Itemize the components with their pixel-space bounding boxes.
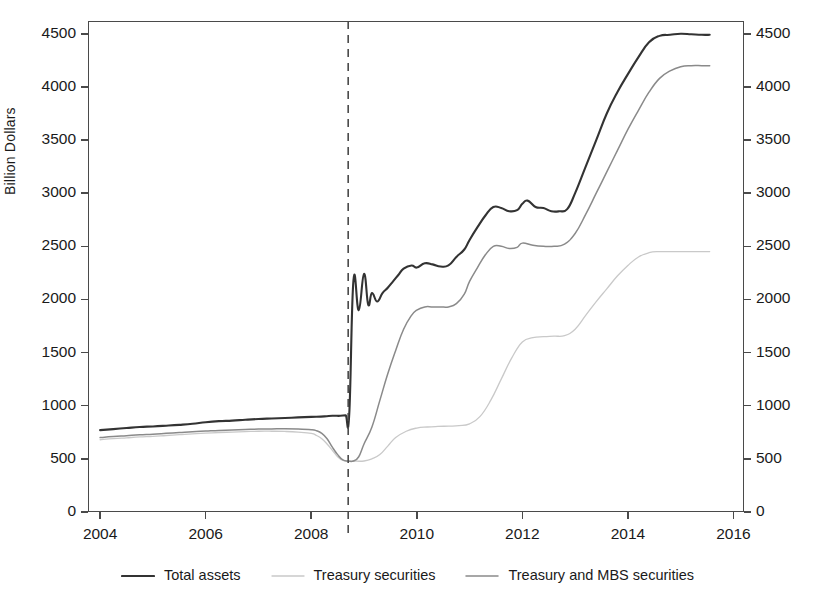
y-tick-label-right: 3500 [756, 130, 790, 148]
y-tick-mark-left [81, 246, 88, 248]
y-tick-label-left: 3500 [42, 130, 76, 148]
y-axis-label: Billion Dollars [2, 65, 18, 195]
x-tick-mark [310, 512, 312, 519]
y-tick-mark-right [744, 511, 751, 513]
y-tick-label-left: 3000 [42, 183, 76, 201]
y-tick-mark-right [744, 192, 751, 194]
y-tick-label-right: 3000 [756, 183, 790, 201]
y-tick-label-left: 2000 [42, 289, 76, 307]
y-tick-label-left: 2500 [42, 236, 76, 254]
y-tick-mark-right [744, 86, 751, 88]
y-tick-label-left: 4500 [42, 24, 76, 42]
y-tick-label-right: 4500 [756, 24, 790, 42]
y-tick-label-left: 500 [50, 449, 76, 467]
y-tick-mark-left [81, 405, 88, 407]
y-tick-label-right: 0 [756, 502, 765, 520]
y-tick-label-right: 2500 [756, 236, 790, 254]
y-tick-label-left: 1000 [42, 396, 76, 414]
y-tick-mark-right [744, 246, 751, 248]
legend-item-total-assets[interactable]: Total assets [121, 566, 241, 584]
y-tick-mark-left [81, 33, 88, 35]
legend-item-treasury-and-mbs-securities[interactable]: Treasury and MBS securities [465, 566, 694, 584]
x-tick-mark [733, 512, 735, 519]
legend-label: Treasury securities [314, 567, 436, 583]
legend-item-treasury-securities[interactable]: Treasury securities [271, 566, 436, 584]
x-tick-mark [627, 512, 629, 519]
x-tick-label: 2008 [294, 525, 328, 543]
x-tick-label: 2010 [400, 525, 434, 543]
y-tick-label-right: 4000 [756, 77, 790, 95]
x-tick-label: 2014 [611, 525, 645, 543]
x-tick-label: 2016 [716, 525, 750, 543]
y-tick-label-left: 1500 [42, 343, 76, 361]
x-tick-mark [416, 512, 418, 519]
legend-label: Total assets [164, 567, 241, 583]
x-tick-mark [522, 512, 524, 519]
y-tick-mark-left [81, 86, 88, 88]
legend-label: Treasury and MBS securities [508, 567, 694, 583]
y-tick-mark-right [744, 33, 751, 35]
y-tick-mark-left [81, 352, 88, 354]
y-tick-label-right: 1000 [756, 396, 790, 414]
legend-line-swatch [465, 566, 499, 584]
x-tick-label: 2004 [83, 525, 117, 543]
x-tick-label: 2012 [505, 525, 539, 543]
y-tick-label-right: 2000 [756, 289, 790, 307]
legend: Total assetsTreasury securitiesTreasury … [0, 566, 815, 584]
x-tick-label: 2006 [188, 525, 222, 543]
y-tick-mark-left [81, 511, 88, 513]
y-tick-mark-left [81, 458, 88, 460]
y-tick-mark-left [81, 299, 88, 301]
y-tick-label-left: 4000 [42, 77, 76, 95]
plot-area [88, 21, 744, 512]
y-tick-mark-left [81, 139, 88, 141]
x-tick-mark [99, 512, 101, 519]
legend-line-swatch [121, 566, 155, 584]
y-tick-mark-right [744, 458, 751, 460]
y-tick-mark-right [744, 139, 751, 141]
legend-line-swatch [271, 566, 305, 584]
y-tick-label-right: 500 [756, 449, 782, 467]
y-tick-mark-right [744, 299, 751, 301]
y-tick-label-right: 1500 [756, 343, 790, 361]
y-tick-label-left: 0 [67, 502, 76, 520]
y-tick-mark-left [81, 192, 88, 194]
y-tick-mark-right [744, 405, 751, 407]
x-tick-mark [205, 512, 207, 519]
chart-figure: Billion Dollars 050010001500200025003000… [0, 0, 815, 608]
y-tick-mark-right [744, 352, 751, 354]
